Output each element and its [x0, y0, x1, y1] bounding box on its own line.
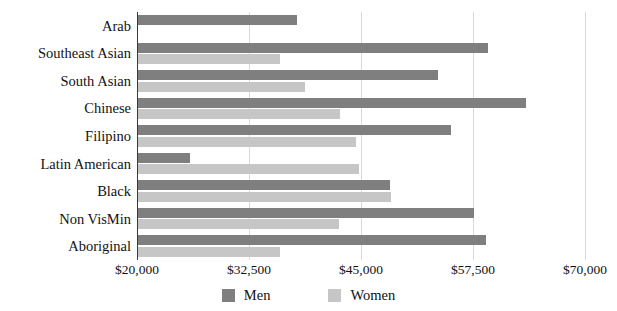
category-label-black: Black: [0, 184, 131, 199]
bar-men-latin-american: [137, 153, 190, 163]
x-tick-label: $70,000: [563, 262, 607, 278]
category-label-chinese: Chinese: [0, 101, 131, 116]
x-tick-label: $57,500: [451, 262, 495, 278]
bar-group: [137, 235, 585, 257]
bar-women-black: [137, 192, 391, 202]
legend-label: Men: [244, 287, 271, 304]
category-label-arab: Arab: [0, 19, 131, 34]
bar-group: [137, 98, 585, 120]
category-label-non-vismin: Non VisMin: [0, 212, 131, 227]
bar-group: [137, 15, 585, 37]
bar-group: [137, 180, 585, 202]
legend-label: Women: [350, 287, 395, 304]
bar-women-southeast-asian: [137, 54, 280, 64]
legend-swatch-icon: [222, 289, 235, 302]
bar-women-latin-american: [137, 164, 359, 174]
bar-men-arab: [137, 15, 297, 25]
bar-men-black: [137, 180, 390, 190]
bar-men-aboriginal: [137, 235, 486, 245]
bar-women-south-asian: [137, 82, 305, 92]
bar-women-chinese: [137, 109, 340, 119]
category-axis-labels: ArabSoutheast AsianSouth AsianChineseFil…: [0, 12, 131, 260]
x-tick-label: $32,500: [227, 262, 271, 278]
bar-men-south-asian: [137, 70, 438, 80]
bar-men-filipino: [137, 125, 451, 135]
category-label-southeast-asian: Southeast Asian: [0, 46, 131, 61]
category-label-south-asian: South Asian: [0, 74, 131, 89]
y-axis-line: [137, 12, 138, 260]
bar-men-non-vismin: [137, 208, 474, 218]
bar-women-filipino: [137, 137, 356, 147]
legend-item-men[interactable]: Men: [222, 287, 271, 304]
bar-group: [137, 70, 585, 92]
category-label-aboriginal: Aboriginal: [0, 239, 131, 254]
x-tick-label: $20,000: [115, 262, 159, 278]
plot-area: [137, 12, 585, 260]
bar-men-southeast-asian: [137, 43, 488, 53]
legend-item-women[interactable]: Women: [328, 287, 395, 304]
bar-group: [137, 125, 585, 147]
chart-container: ArabSoutheast AsianSouth AsianChineseFil…: [0, 0, 617, 311]
bar-women-non-vismin: [137, 219, 339, 229]
gridline: [585, 12, 586, 260]
bar-men-chinese: [137, 98, 526, 108]
category-label-filipino: Filipino: [0, 129, 131, 144]
bar-women-aboriginal: [137, 247, 280, 257]
x-tick-label: $45,000: [339, 262, 383, 278]
bar-group: [137, 153, 585, 175]
chart-legend: MenWomen: [0, 284, 617, 306]
bar-group: [137, 43, 585, 65]
legend-swatch-icon: [328, 289, 341, 302]
category-label-latin-american: Latin American: [0, 157, 131, 172]
x-axis-tick-labels: $20,000$32,500$45,000$57,500$70,000: [0, 262, 617, 282]
bar-group: [137, 208, 585, 230]
